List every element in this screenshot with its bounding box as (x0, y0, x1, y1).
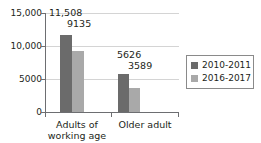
bar-adults-working-age-2010-2011 (60, 35, 72, 112)
y-axis-tick-label-5000: 5000 (2, 75, 42, 84)
y-axis-tick-mark-15000 (41, 13, 45, 14)
category-label-line-1: Adults of (56, 119, 98, 130)
x-axis-line (45, 112, 179, 113)
y-axis-tick-label-10000: 10,000 (2, 42, 42, 51)
chart-legend: 2010-2011 2016-2017 (186, 55, 254, 89)
legend-swatch-icon-2016-2017 (191, 75, 198, 82)
y-axis-tick-mark-10000 (41, 46, 45, 47)
data-label-older-adult-2010-2011: 5626 (117, 50, 141, 60)
category-label-line-2: working age (42, 130, 112, 141)
grouped-bar-chart: 15,000 10,000 5000 0 11,508 9135 5626 35… (0, 0, 261, 143)
x-axis-category-label-adults-working-age: Adults of working age (42, 119, 112, 141)
category-label-line-1: Older adult (118, 119, 171, 130)
x-axis-tick-mark-left (45, 113, 46, 117)
legend-item-2010-2011: 2010-2011 (191, 59, 249, 72)
legend-item-2016-2017: 2016-2017 (191, 72, 249, 85)
data-label-adults-working-age-2016-2017: 9135 (67, 19, 91, 29)
legend-swatch-icon-2010-2011 (191, 62, 198, 69)
y-axis-tick-mark-5000 (41, 79, 45, 80)
bar-older-adult-2010-2011 (118, 74, 129, 112)
x-axis-tick-mark-middle (111, 113, 112, 117)
legend-label-2016-2017: 2016-2017 (202, 74, 251, 83)
bar-older-adult-2016-2017 (129, 88, 140, 112)
bar-adults-working-age-2016-2017 (72, 51, 84, 112)
data-label-adults-working-age-2010-2011: 11,508 (49, 8, 82, 18)
data-label-older-adult-2016-2017: 3589 (128, 61, 152, 71)
legend-label-2010-2011: 2010-2011 (202, 61, 251, 70)
y-axis-tick-label-15000: 15,000 (2, 9, 42, 18)
y-axis-tick-label-0: 0 (2, 108, 42, 117)
x-axis-tick-mark-right (178, 113, 179, 117)
x-axis-category-label-older-adult: Older adult (110, 119, 180, 130)
y-axis-line (45, 13, 46, 113)
